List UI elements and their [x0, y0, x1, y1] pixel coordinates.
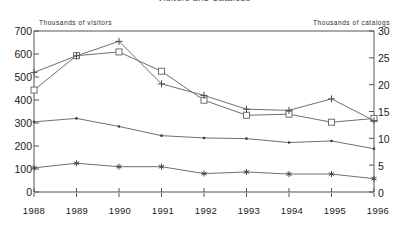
data-point-square-marker [159, 68, 165, 74]
data-point-dot-marker [160, 134, 163, 137]
series-line [34, 118, 374, 148]
data-series-2 [31, 38, 378, 124]
series-line [34, 41, 374, 120]
plot-area [0, 0, 408, 230]
data-point-plus-marker [243, 106, 250, 113]
data-point-dot-marker [245, 137, 248, 140]
data-point-plus-marker [31, 69, 38, 76]
data-point-dot-marker [330, 140, 333, 143]
data-point-plus-marker [328, 95, 335, 102]
data-point-dot-marker [75, 117, 78, 120]
data-point-dot-marker [203, 137, 206, 140]
data-point-dot-marker [288, 141, 291, 144]
data-series-4 [31, 160, 376, 181]
data-point-square-marker [329, 119, 335, 125]
data-point-dot-marker [33, 121, 36, 124]
data-series-1 [31, 49, 377, 125]
series-line [34, 52, 374, 122]
data-point-dot-marker [373, 147, 376, 150]
data-series-3 [33, 117, 376, 150]
data-point-dot-marker [118, 125, 121, 128]
data-point-square-marker [116, 49, 122, 55]
chart-container: Visitors and Catalogs Thousands of visit… [0, 0, 408, 230]
data-point-square-marker [244, 112, 250, 118]
data-point-square-marker [31, 87, 37, 93]
